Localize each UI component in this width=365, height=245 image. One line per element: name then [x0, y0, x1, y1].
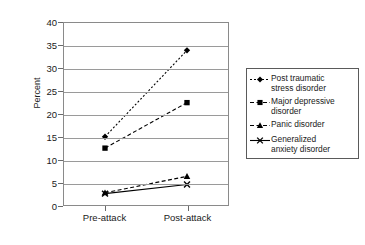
- y-tick-label: 15: [29, 132, 57, 143]
- y-tick-mark: [58, 137, 63, 138]
- gridline: [64, 184, 228, 185]
- cross-marker-icon: [249, 135, 271, 146]
- y-tick-mark: [58, 160, 63, 161]
- gridline: [64, 69, 228, 70]
- x-tick-mark: [105, 206, 106, 211]
- legend-item-4[interactable]: Generalizedanxiety disorder: [249, 134, 355, 154]
- legend-item-2[interactable]: Major depressivedisorder: [249, 96, 355, 116]
- y-tick-label: 10: [29, 155, 57, 166]
- gridline: [64, 115, 228, 116]
- plot-area: [63, 22, 229, 206]
- line-chart: Percent 0510152025303540 Pre-attackPost-…: [0, 0, 365, 245]
- y-tick-mark: [58, 45, 63, 46]
- y-tick-label: 35: [29, 40, 57, 51]
- x-tick-label: Post-attack: [164, 212, 212, 223]
- y-tick-label: 25: [29, 86, 57, 97]
- legend-item-3[interactable]: Panic disorder: [249, 119, 355, 131]
- series-layer: [64, 23, 228, 205]
- gridline: [64, 161, 228, 162]
- triangle-marker-icon: [249, 120, 271, 131]
- y-tick-label: 30: [29, 63, 57, 74]
- gridline: [64, 138, 228, 139]
- legend-label: Generalizedanxiety disorder: [271, 134, 330, 154]
- series-2: [102, 100, 189, 151]
- y-tick-label: 5: [29, 178, 57, 189]
- legend-item-1[interactable]: Post traumaticstress disorder: [249, 73, 355, 93]
- y-tick-mark: [58, 68, 63, 69]
- y-tick-mark: [58, 22, 63, 23]
- y-tick-mark: [58, 114, 63, 115]
- x-tick-mark: [188, 206, 189, 211]
- legend-label: Panic disorder: [271, 119, 325, 129]
- chart-legend: Post traumaticstress disorderMajor depre…: [246, 68, 359, 159]
- y-tick-label: 20: [29, 109, 57, 120]
- y-tick-mark: [58, 91, 63, 92]
- diamond-marker-icon: [249, 74, 271, 85]
- x-tick-label: Pre-attack: [83, 212, 126, 223]
- series-1: [102, 47, 190, 140]
- gridline: [64, 92, 228, 93]
- gridline: [64, 46, 228, 47]
- y-tick-mark: [58, 183, 63, 184]
- y-tick-label: 0: [29, 201, 57, 212]
- y-tick-label: 40: [29, 17, 57, 28]
- square-marker-icon: [249, 97, 271, 108]
- y-tick-mark: [58, 206, 63, 207]
- legend-label: Major depressivedisorder: [271, 96, 335, 116]
- legend-label: Post traumaticstress disorder: [271, 73, 326, 93]
